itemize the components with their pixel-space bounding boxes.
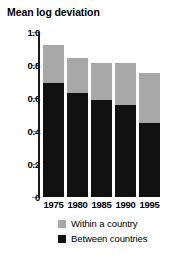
bar-segment-between-1980: [67, 93, 88, 197]
bar-segment-within-1980: [67, 58, 88, 93]
bar-1985: [91, 63, 112, 197]
legend-item-between-countries: Between countries: [58, 233, 147, 244]
plot-area: 1.0 0.8 0.6 0.4 0.2 0 197519801985199019…: [0, 0, 189, 210]
bar-segment-between-1975: [43, 83, 64, 197]
legend-item-within-a-country: Within a country: [58, 218, 147, 229]
bar-segment-between-1990: [115, 105, 136, 197]
bar-segment-between-1995: [139, 123, 160, 197]
bar-1995: [139, 73, 160, 197]
mean-log-deviation-chart: Mean log deviation 1.0 0.8 0.6 0.4 0.2 0…: [0, 0, 189, 267]
legend-label-between: Between countries: [71, 233, 147, 244]
bar-segment-within-1985: [91, 63, 112, 99]
x-axis-label-1995: 1995: [133, 199, 167, 210]
bar-segment-between-1985: [91, 100, 112, 197]
legend-swatch-icon-between: [58, 235, 66, 243]
bar-1980: [67, 58, 88, 197]
chart-legend: Within a country Between countries: [58, 218, 147, 248]
bar-segment-within-1995: [139, 73, 160, 123]
bar-1975: [43, 45, 64, 197]
bar-segment-within-1975: [43, 45, 64, 83]
legend-swatch-icon-within: [58, 220, 66, 228]
legend-label-within: Within a country: [71, 218, 138, 229]
bar-1990: [115, 63, 136, 197]
y-axis-line: [38, 32, 40, 198]
bar-segment-within-1990: [115, 63, 136, 104]
